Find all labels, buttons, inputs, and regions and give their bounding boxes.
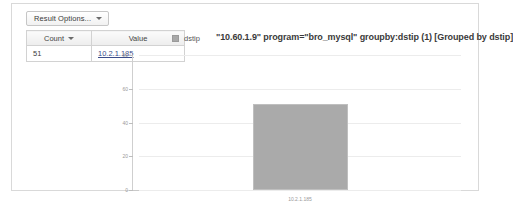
bar-dstip-10.2.1.185[interactable] xyxy=(253,104,348,190)
column-header-count-label: Count xyxy=(44,34,64,43)
y-axis-tick-label: 60 xyxy=(116,86,128,91)
y-axis-tick-label: 20 xyxy=(116,154,128,159)
y-axis-tick-mark xyxy=(129,89,133,90)
table-header: Count Value xyxy=(27,31,185,46)
gridline xyxy=(139,89,461,90)
legend-label-dstip: dstip xyxy=(184,34,200,43)
y-axis-tick-mark xyxy=(129,123,133,124)
y-axis-tick-mark xyxy=(129,156,133,157)
column-header-value-label: Value xyxy=(129,34,148,43)
result-options-button[interactable]: Result Options... xyxy=(26,11,109,26)
y-axis-tick-mark xyxy=(129,190,133,191)
x-axis-tick-label: 10.2.1.185 xyxy=(260,197,340,202)
gridline xyxy=(139,55,461,56)
y-axis-tick-mark xyxy=(129,55,133,56)
cell-count: 51 xyxy=(27,46,92,62)
sort-chevron-down-icon[interactable] xyxy=(68,37,74,40)
chart-title: "10.60.1.9" program="bro_mysql" groupby:… xyxy=(216,32,513,42)
chart-panel: Result Options... Count Value xyxy=(11,3,479,191)
chevron-down-icon xyxy=(96,17,102,20)
column-header-count[interactable]: Count xyxy=(27,31,92,46)
result-options-label: Result Options... xyxy=(34,15,91,23)
bar-chart: 02040608010.2.1.185 xyxy=(116,50,482,206)
y-axis-tick-label: 40 xyxy=(116,120,128,125)
chart-legend: dstip xyxy=(172,34,200,43)
legend-swatch-dstip xyxy=(172,35,179,42)
y-axis-tick-label: 0 xyxy=(116,188,128,193)
y-axis-tick-label: 80 xyxy=(116,53,128,58)
table-header-row: Count Value xyxy=(27,31,185,46)
column-header-value[interactable]: Value xyxy=(92,31,185,46)
gridline xyxy=(139,190,461,191)
